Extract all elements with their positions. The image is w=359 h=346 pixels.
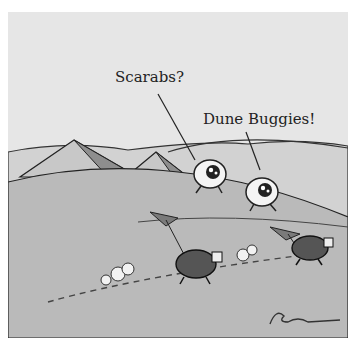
- speech-text-left: Scarabs?: [115, 68, 184, 86]
- cartoon-panel: Scarabs? Dune Buggies!: [8, 12, 348, 338]
- cartoon-illustration: [8, 12, 348, 338]
- speech-text-right: Dune Buggies!: [203, 110, 315, 128]
